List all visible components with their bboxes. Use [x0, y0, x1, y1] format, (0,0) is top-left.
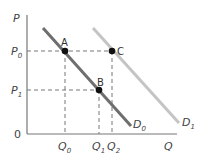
q0-label: Q0 — [58, 140, 72, 155]
p0-label: P0 — [11, 45, 23, 60]
demand-curve-d0 — [43, 28, 131, 126]
point-a — [62, 48, 69, 55]
demand-curve-d1 — [93, 28, 179, 123]
y-axis-label: P — [13, 12, 20, 25]
q2-label: Q2 — [107, 140, 121, 155]
point-a-label: A — [61, 37, 68, 48]
d1-label: D1 — [182, 116, 195, 131]
demand-shift-diagram: A B C P Q 0 P0 P1 Q0 Q1 Q2 D0 D1 — [0, 0, 201, 156]
q1-label: Q1 — [92, 140, 105, 155]
point-c-label: C — [117, 46, 124, 57]
point-b-label: B — [97, 77, 104, 88]
p1-label: P1 — [11, 84, 22, 99]
origin-label: 0 — [14, 128, 21, 141]
point-c — [109, 48, 116, 55]
d0-label: D0 — [133, 118, 146, 133]
x-axis-label: Q — [164, 140, 173, 153]
